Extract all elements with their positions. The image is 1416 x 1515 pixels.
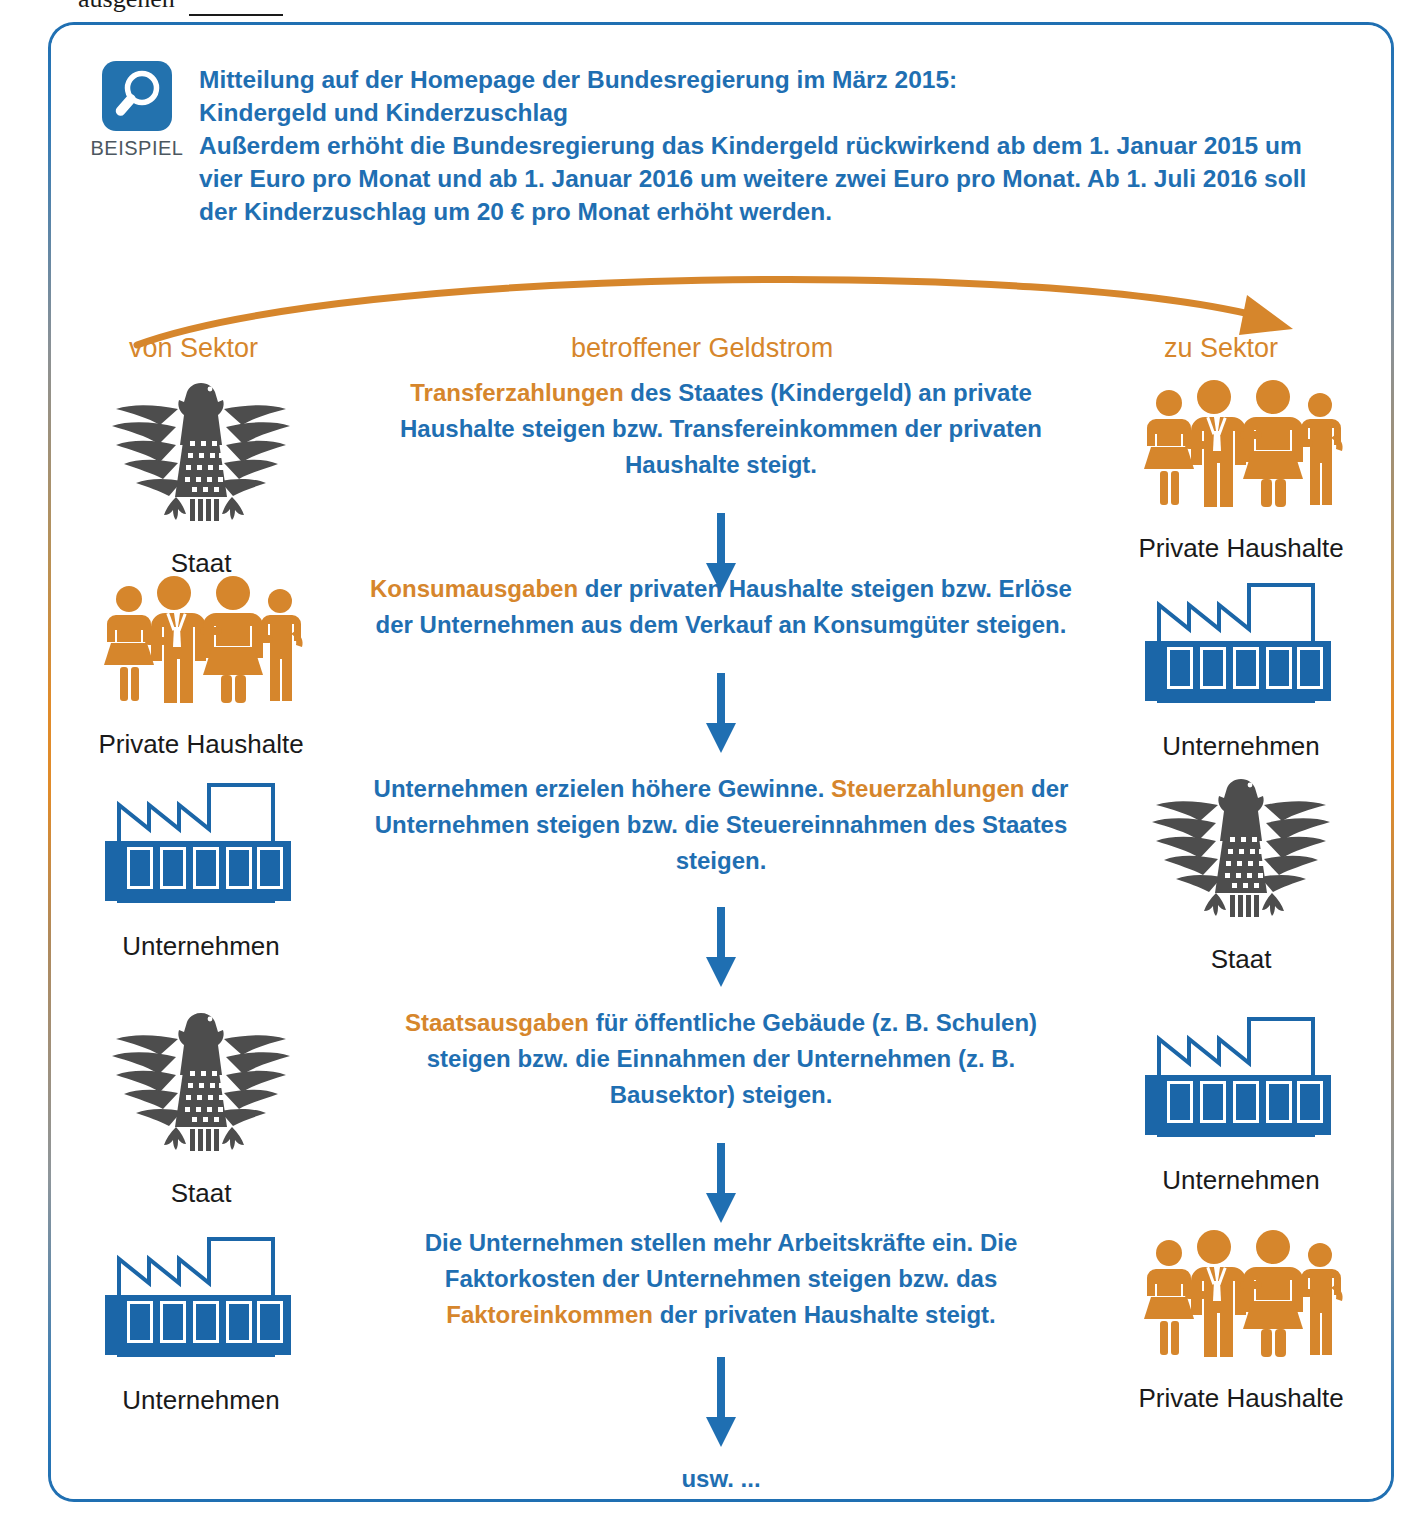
family-icon-svg [1139, 375, 1344, 525]
flow-step-keyword: Steuerzahlungen [831, 775, 1024, 802]
eagle-icon [106, 375, 296, 544]
family-icon [1139, 375, 1344, 529]
sector-from: Unternehmen [51, 771, 351, 962]
sector-to: Unternehmen [1091, 571, 1391, 762]
flow-step-body: Die Unternehmen stellen mehr Arbeitskräf… [425, 1229, 1018, 1292]
eagle-icon-svg [106, 1005, 296, 1170]
flow-connector [361, 673, 1081, 759]
factory-icon-svg [101, 1225, 301, 1377]
clipped-page-text-blank: Antwort [189, 0, 284, 16]
eagle-icon-svg [1146, 771, 1336, 936]
magnifier-icon [102, 61, 172, 131]
sector-to-label: Unternehmen [1091, 731, 1391, 762]
flow-step-text: Transferzahlungen des Staates (Kindergel… [361, 375, 1081, 483]
sector-to-label: Unternehmen [1091, 1165, 1391, 1196]
factory-icon [101, 771, 301, 927]
column-caption-middle: betroffener Geldstrom [571, 333, 833, 364]
family-icon [1139, 1225, 1344, 1379]
sector-from-label: Unternehmen [51, 1385, 351, 1416]
sector-from: Unternehmen [51, 1225, 351, 1416]
column-caption-to: zu Sektor [1164, 333, 1278, 364]
flow-step: Unternehmen erzielen höhere Gewinne. Ste… [351, 771, 1091, 993]
flow-step: Staatsausgaben für öffentliche Gebäude (… [351, 1005, 1091, 1229]
clipped-page-text-word: ausgehen [78, 0, 175, 13]
down-arrow-icon [699, 673, 743, 755]
sector-to-label: Private Haushalte [1091, 1383, 1391, 1414]
beispiel-badge: BEISPIEL [89, 61, 185, 160]
flow-step-keyword: Konsumausgaben [370, 575, 578, 602]
flow-row: UnternehmenUnternehmen erzielen höhere G… [51, 771, 1391, 1005]
flow-step-text: Die Unternehmen stellen mehr Arbeitskräf… [361, 1225, 1081, 1333]
flow-step: Konsumausgaben der privaten Haushalte st… [351, 571, 1091, 759]
sector-to: Private Haushalte [1091, 375, 1391, 564]
example-box: BEISPIEL Mitteilung auf der Homepage der… [48, 22, 1394, 1502]
family-icon-svg [99, 571, 304, 721]
clipped-page-text: ausgehenAntwort [78, 0, 283, 14]
family-icon-svg [1139, 1225, 1344, 1375]
flow-row: Private HaushalteKonsumausgaben der priv… [51, 571, 1391, 771]
flow-footer-usw: usw. ... [51, 1465, 1391, 1493]
eagle-icon [106, 1005, 296, 1174]
flow-step-body: Unternehmen erzielen höhere Gewinne. [374, 775, 831, 802]
flow-connector [361, 1357, 1081, 1453]
flow-step-keyword: Staatsausgaben [405, 1009, 589, 1036]
sector-to: Unternehmen [1091, 1005, 1391, 1196]
factory-icon [1141, 571, 1341, 727]
sector-to: Staat [1091, 771, 1391, 975]
down-arrow-icon [699, 1357, 743, 1449]
flow-step-keyword: Transferzahlungen [410, 379, 623, 406]
flow-connector [361, 1143, 1081, 1229]
sector-to-label: Staat [1091, 944, 1391, 975]
family-icon [99, 571, 304, 725]
beispiel-label: BEISPIEL [89, 137, 185, 160]
sector-from: Staat [51, 1005, 351, 1209]
sector-from-label: Staat [51, 1178, 351, 1209]
flow-step: Transferzahlungen des Staates (Kindergel… [351, 375, 1091, 599]
factory-icon [1141, 1005, 1341, 1161]
eagle-icon [1146, 771, 1336, 940]
factory-icon-svg [101, 771, 301, 923]
sector-to-label: Private Haushalte [1091, 533, 1391, 564]
sector-to: Private Haushalte [1091, 1225, 1391, 1414]
sector-from: Staat [51, 375, 351, 579]
eagle-icon-svg [106, 375, 296, 540]
sector-from: Private Haushalte [51, 571, 351, 760]
sector-from-label: Unternehmen [51, 931, 351, 962]
flow-step-text: Unternehmen erzielen höhere Gewinne. Ste… [361, 771, 1081, 879]
flow-step-body: der privaten Haushalte steigt. [653, 1301, 996, 1328]
flow-step-text: Staatsausgaben für öffentliche Gebäude (… [361, 1005, 1081, 1113]
down-arrow-icon [699, 1143, 743, 1225]
factory-icon-svg [1141, 571, 1341, 723]
example-body: Außerdem erhöht die Bundesregierung das … [199, 129, 1329, 228]
sector-from-label: Private Haushalte [51, 729, 351, 760]
flow-step-keyword: Faktoreinkommen [446, 1301, 653, 1328]
flow-connector [361, 907, 1081, 993]
example-title: Kindergeld und Kinderzuschlag [199, 96, 1329, 129]
flow-row: UnternehmenDie Unternehmen stellen mehr … [51, 1225, 1391, 1455]
flow-step: Die Unternehmen stellen mehr Arbeitskräf… [351, 1225, 1091, 1453]
factory-icon [101, 1225, 301, 1381]
factory-icon-svg [1141, 1005, 1341, 1157]
example-intro-line: Mitteilung auf der Homepage der Bundesre… [199, 66, 957, 93]
example-header: BEISPIEL Mitteilung auf der Homepage der… [89, 61, 1329, 228]
column-caption-from: von Sektor [129, 333, 258, 364]
flow-row: StaatStaatsausgaben für öffentliche Gebä… [51, 1005, 1391, 1225]
down-arrow-icon [699, 907, 743, 989]
flow-step-text: Konsumausgaben der privaten Haushalte st… [361, 571, 1081, 643]
flow-row: StaatTransferzahlungen des Staates (Kind… [51, 375, 1391, 571]
example-header-text: Mitteilung auf der Homepage der Bundesre… [199, 61, 1329, 228]
